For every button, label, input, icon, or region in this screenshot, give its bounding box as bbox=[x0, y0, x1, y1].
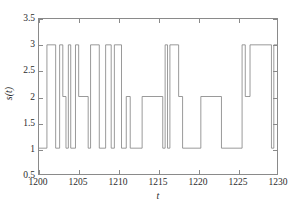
y-tick-mark bbox=[273, 124, 277, 125]
y-tick-label: 3.5 bbox=[1, 13, 35, 23]
x-tick-mark bbox=[39, 170, 40, 174]
y-tick-label: 1.5 bbox=[1, 118, 35, 128]
y-tick-label: 2 bbox=[1, 92, 35, 102]
y-tick-mark bbox=[39, 124, 43, 125]
x-tick-mark bbox=[79, 170, 80, 174]
x-tick-label: 1210 bbox=[96, 177, 140, 188]
x-axis-label: t bbox=[38, 190, 278, 201]
y-axis-tick-labels: 0.511.522.533.5 bbox=[0, 18, 35, 175]
figure-canvas: s(t) 0.511.522.533.5 1200120512101215122… bbox=[0, 0, 289, 215]
x-tick-label: 1205 bbox=[56, 177, 100, 188]
x-tick-label: 1230 bbox=[256, 177, 289, 188]
x-tick-mark bbox=[159, 170, 160, 174]
y-tick-mark bbox=[273, 71, 277, 72]
y-tick-mark bbox=[39, 150, 43, 151]
y-tick-mark bbox=[273, 150, 277, 151]
x-axis-tick-labels: 1200120512101215122012251230 bbox=[38, 177, 278, 191]
x-tick-mark bbox=[119, 170, 120, 174]
x-tick-mark bbox=[79, 19, 80, 23]
series-polyline bbox=[39, 45, 277, 148]
y-tick-mark bbox=[273, 98, 277, 99]
y-tick-mark bbox=[273, 45, 277, 46]
y-tick-label: 2.5 bbox=[1, 65, 35, 75]
x-tick-label: 1220 bbox=[176, 177, 220, 188]
x-tick-mark bbox=[119, 19, 120, 23]
x-tick-mark bbox=[199, 19, 200, 23]
x-tick-mark bbox=[239, 19, 240, 23]
y-tick-label: 3 bbox=[1, 39, 35, 49]
x-tick-mark bbox=[159, 19, 160, 23]
y-tick-mark bbox=[39, 98, 43, 99]
x-tick-label: 1200 bbox=[16, 177, 60, 188]
x-tick-mark bbox=[199, 170, 200, 174]
x-tick-mark bbox=[39, 19, 40, 23]
x-tick-label: 1225 bbox=[216, 177, 260, 188]
y-tick-mark bbox=[273, 19, 277, 20]
x-tick-label: 1215 bbox=[136, 177, 180, 188]
plot-area bbox=[38, 18, 278, 175]
y-tick-mark bbox=[39, 71, 43, 72]
y-tick-label: 1 bbox=[1, 144, 35, 154]
y-tick-mark bbox=[39, 45, 43, 46]
series-step-line bbox=[39, 19, 277, 174]
x-tick-mark bbox=[239, 170, 240, 174]
